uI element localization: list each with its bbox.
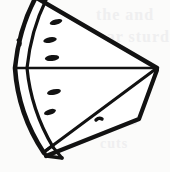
bottom-edge-nub	[96, 118, 102, 120]
watermelon-slice-drawing	[0, 0, 170, 172]
watermelon-slice-figure: the and wear sturdy and to cuts	[0, 0, 170, 172]
